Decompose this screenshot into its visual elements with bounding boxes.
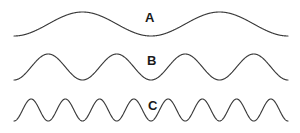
wave-diagram-figure: A B C <box>0 0 300 133</box>
wave-label-b: B <box>147 54 156 67</box>
wave-label-a: A <box>145 11 154 24</box>
wave-label-c: C <box>148 99 157 112</box>
